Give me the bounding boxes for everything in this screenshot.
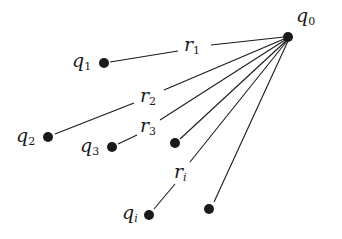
line-r3-a <box>118 135 137 144</box>
label-q0: q0 <box>296 4 315 28</box>
charge-dot-q1 <box>99 58 109 68</box>
charge-labels: q0 q1 q2 q3 qi <box>16 4 315 225</box>
label-r2: r2 <box>140 84 156 108</box>
label-r1: r1 <box>184 33 200 57</box>
charge-distance-diagram: q0 q1 q2 q3 qi r1 r2 r3 ri <box>0 0 342 239</box>
line-ri-b <box>190 41 287 162</box>
line-ri-a <box>154 184 175 209</box>
label-qi: qi <box>122 201 138 225</box>
charge-dot-q3 <box>107 142 117 152</box>
label-q3: q3 <box>80 134 99 158</box>
label-r3: r3 <box>140 114 156 138</box>
charge-dot-q0 <box>283 32 293 42</box>
charge-dot-unlabeled-b <box>204 204 214 214</box>
label-q2: q2 <box>16 124 35 148</box>
line-r2-a <box>55 103 134 134</box>
charge-dot-q2 <box>43 132 53 142</box>
line-r3-b <box>160 40 285 120</box>
line-r1-a <box>110 51 178 62</box>
charge-dot-qi <box>144 210 154 220</box>
line-r2-b <box>164 39 284 90</box>
line-unlabeled-b <box>214 41 288 202</box>
charge-dot-unlabeled-a <box>170 138 180 148</box>
label-q1: q1 <box>72 49 91 73</box>
label-ri: ri <box>174 160 187 184</box>
